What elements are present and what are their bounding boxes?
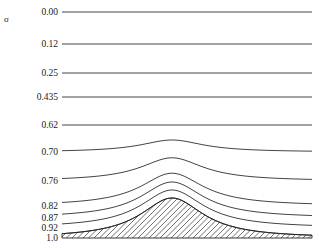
hatch-line	[37, 192, 85, 240]
hatch-line	[307, 192, 319, 240]
sigma-coordinate-figure: σ 0.000.120.250.4350.620.700.760.820.870…	[0, 0, 318, 249]
hatch-line	[312, 192, 318, 240]
hatch-line	[301, 192, 318, 240]
hatch-line	[257, 192, 305, 240]
terrain-outline	[62, 198, 312, 238]
hatch-line	[10, 192, 58, 240]
hatch-line	[274, 192, 319, 240]
sigma-level-line	[62, 158, 312, 180]
hatch-line	[296, 192, 319, 240]
hatch-line	[4, 192, 52, 240]
hatch-line	[43, 192, 91, 240]
hatch-line	[26, 192, 74, 240]
hatch-line	[318, 192, 319, 240]
hatch-line	[21, 192, 69, 240]
hatch-line	[279, 192, 318, 240]
hatch-line	[15, 192, 63, 240]
sigma-level-lines	[62, 12, 312, 235]
hatch-line	[290, 192, 318, 240]
sigma-level-line	[62, 140, 312, 151]
sigma-levels-plot	[0, 0, 318, 249]
sigma-level-line	[62, 190, 312, 225]
mountain-terrain	[4, 192, 318, 240]
hatch-line	[285, 192, 319, 240]
